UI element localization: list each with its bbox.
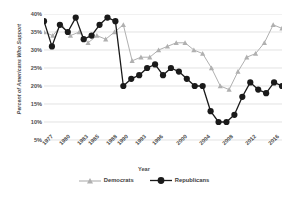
data-point-triangle: [165, 44, 170, 49]
data-point-triangle: [94, 33, 99, 38]
data-point-circle: [49, 43, 55, 49]
chart-canvas: [44, 14, 282, 142]
data-point-triangle: [235, 69, 240, 74]
data-point-circle: [152, 61, 158, 67]
legend-label-democrats: Democrats: [104, 178, 134, 184]
y-tick-label: 30%: [16, 47, 42, 53]
data-point-circle: [160, 72, 166, 78]
data-point-circle: [168, 65, 174, 71]
data-point-circle: [128, 76, 134, 82]
data-point-circle: [255, 87, 261, 93]
chart-legend: Democrats Republicans: [0, 176, 288, 185]
x-axis-title: Year: [0, 166, 288, 172]
data-point-circle: [89, 33, 95, 39]
data-point-triangle: [244, 55, 249, 60]
data-point-circle: [136, 72, 142, 78]
data-point-circle: [44, 18, 47, 24]
data-point-circle: [184, 76, 190, 82]
data-point-triangle: [279, 26, 282, 31]
data-point-triangle: [200, 51, 205, 56]
data-point-circle: [200, 83, 206, 89]
data-point-circle: [263, 90, 269, 96]
legend-marker-circle-icon: [150, 176, 172, 185]
y-tick-label: 25%: [16, 65, 42, 71]
data-point-circle: [208, 108, 214, 114]
data-point-circle: [65, 29, 71, 35]
y-tick-label: 40%: [16, 11, 42, 17]
y-tick-label: 35%: [16, 29, 42, 35]
data-point-triangle: [262, 40, 267, 45]
data-point-circle: [247, 79, 253, 85]
data-point-circle: [223, 119, 229, 125]
line-chart: Percent of Americans Who Support 40%35%3…: [0, 0, 288, 198]
data-point-circle: [144, 65, 150, 71]
data-point-circle: [112, 18, 118, 24]
series-democrats: [44, 22, 282, 92]
y-tick-label: 10%: [16, 119, 42, 125]
y-tick-label: 20%: [16, 83, 42, 89]
legend-label-republicans: Republicans: [175, 178, 209, 184]
data-point-circle: [120, 83, 126, 89]
data-point-circle: [57, 22, 63, 28]
data-point-circle: [279, 83, 282, 89]
data-point-circle: [231, 112, 237, 118]
y-tick-label: 15%: [16, 101, 42, 107]
legend-item-democrats: Democrats: [79, 177, 134, 185]
legend-item-republicans: Republicans: [150, 176, 209, 185]
data-point-circle: [215, 119, 221, 125]
plot-area: [44, 14, 282, 140]
legend-marker-triangle-icon: [79, 177, 101, 185]
data-point-circle: [104, 15, 110, 21]
data-point-circle: [239, 94, 245, 100]
data-point-circle: [192, 83, 198, 89]
data-point-circle: [73, 15, 79, 21]
data-point-circle: [176, 69, 182, 75]
data-point-triangle: [130, 58, 135, 63]
data-point-triangle: [271, 22, 276, 27]
data-point-circle: [81, 36, 87, 42]
data-point-circle: [271, 79, 277, 85]
x-axis-tick-labels: 1977198019831985198819901993199620002004…: [0, 142, 288, 166]
data-point-triangle: [227, 87, 232, 92]
data-point-triangle: [121, 22, 126, 27]
data-point-circle: [96, 22, 102, 28]
